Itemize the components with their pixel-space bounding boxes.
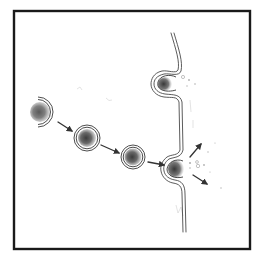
- particle: [214, 142, 215, 143]
- particle: [188, 79, 190, 81]
- particle: [189, 162, 191, 164]
- particle: [186, 85, 187, 86]
- particle: [220, 187, 221, 188]
- particle: [194, 83, 196, 85]
- particle: [207, 151, 208, 152]
- exocytosis-diagram: [0, 0, 257, 261]
- particle: [203, 164, 205, 166]
- vesicle-3: [121, 145, 145, 169]
- figure-frame: [14, 11, 250, 249]
- particle: [209, 171, 210, 172]
- particle: [189, 167, 191, 169]
